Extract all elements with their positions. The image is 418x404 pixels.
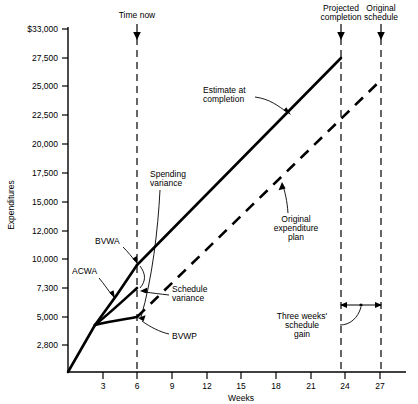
three-weeks-label-line3: gain	[294, 329, 310, 339]
y-tick-label: 20,000	[32, 139, 58, 149]
x-tick-label: 9	[170, 381, 175, 391]
chart-container: $33,000 27,500 25,000 22,500 20,000 17,5…	[0, 0, 418, 404]
projected-completion-label-line2: completion	[320, 12, 361, 22]
x-tick-label: 24	[340, 381, 350, 391]
y-tick-label: 27,500	[32, 53, 58, 63]
bvwa-label: BVWA	[95, 236, 120, 246]
x-tick-label: 3	[101, 381, 106, 391]
x-tick-label: 18	[271, 381, 281, 391]
original-schedule-label-line2: schedule	[364, 12, 398, 22]
x-tick-label: 27	[375, 381, 385, 391]
original-plan-label-line3: plan	[288, 232, 304, 242]
expenditure-tracking-chart: $33,000 27,500 25,000 22,500 20,000 17,5…	[0, 0, 418, 404]
schedule-variance-label-line2: variance	[172, 293, 204, 303]
y-tick-label: 15,000	[32, 197, 58, 207]
time-now-label: Time now	[119, 10, 156, 20]
spending-variance-label-line2: variance	[150, 178, 182, 188]
x-tick-label: 21	[306, 381, 316, 391]
estimate-at-completion-label-line2: completion	[203, 94, 244, 104]
y-tick-label: 17,500	[32, 168, 58, 178]
y-tick-label: 25,000	[32, 81, 58, 91]
y-axis-title: Expenditures	[6, 180, 16, 230]
x-tick-label: 15	[236, 381, 246, 391]
y-tick-label: 2,800	[37, 340, 59, 350]
acwa-label: ACWA	[72, 266, 98, 276]
y-tick-label: 12,000	[32, 226, 58, 236]
x-axis-title: Weeks	[228, 393, 254, 403]
y-tick-label: 22,500	[32, 110, 58, 120]
x-tick-label: 6	[135, 381, 140, 391]
schedule-gain-leader-dot	[359, 303, 362, 306]
y-tick-label: 7,300	[37, 283, 59, 293]
y-tick-label: 5,000	[37, 312, 59, 322]
bvwp-label: BVWP	[172, 331, 197, 341]
x-tick-label: 12	[202, 381, 212, 391]
y-tick-label: $33,000	[27, 24, 58, 34]
y-tick-label: 10,000	[32, 254, 58, 264]
